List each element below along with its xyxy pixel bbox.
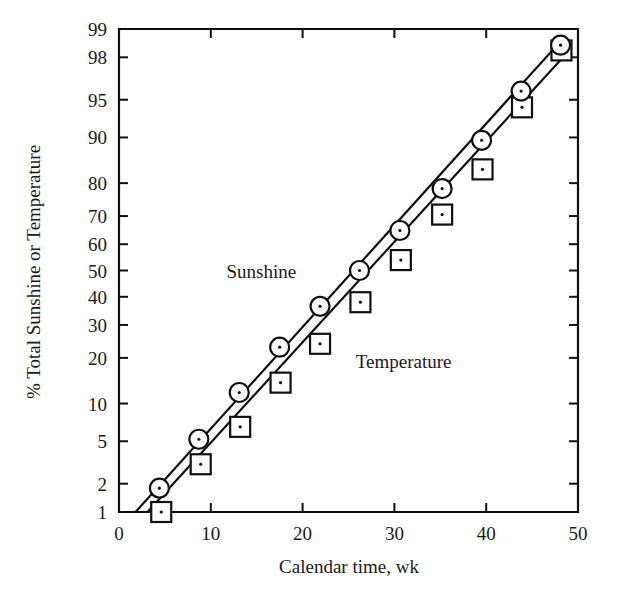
- data-point-center-dot: [318, 305, 321, 308]
- x-tick-label: 10: [201, 523, 220, 544]
- y-tick-label: 10: [88, 394, 107, 415]
- data-point-center-dot: [279, 381, 282, 384]
- y-tick-label: 1: [98, 502, 108, 523]
- data-point-center-dot: [238, 391, 241, 394]
- series-annotations: SunshineTemperature: [226, 261, 451, 371]
- probability-plot: 01020304050 125102030405060708090959899 …: [0, 0, 621, 616]
- data-point-center-dot: [359, 301, 362, 304]
- y-tick-label: 80: [88, 173, 107, 194]
- series-sunshine-markers: [150, 36, 570, 498]
- y-tick-label: 99: [88, 19, 107, 40]
- y-tick-label: 5: [98, 431, 108, 452]
- y-tick-label: 70: [88, 206, 107, 227]
- x-tick-label: 50: [569, 523, 588, 544]
- x-axis-title: Calendar time, wk: [279, 556, 419, 577]
- data-point-center-dot: [197, 438, 200, 441]
- y-tick-label: 60: [88, 234, 107, 255]
- y-tick-label: 2: [98, 474, 108, 495]
- y-tick-label: 90: [88, 127, 107, 148]
- data-point-center-dot: [318, 342, 321, 345]
- data-point-center-dot: [481, 168, 484, 171]
- data-point-center-dot: [520, 106, 523, 109]
- x-axis-tick-labels: 01020304050: [114, 523, 587, 544]
- data-point-center-dot: [441, 213, 444, 216]
- chart-figure: 01020304050 125102030405060708090959899 …: [0, 0, 621, 616]
- x-axis-ticks: [119, 29, 578, 512]
- y-tick-label: 40: [88, 287, 107, 308]
- data-point-center-dot: [358, 269, 361, 272]
- y-axis-ticks: [119, 29, 578, 512]
- data-point-center-dot: [278, 346, 281, 349]
- data-point-center-dot: [441, 187, 444, 190]
- plot-frame: [119, 29, 578, 512]
- x-tick-label: 30: [385, 523, 404, 544]
- annotation-temperature: Temperature: [356, 351, 452, 372]
- data-point-center-dot: [199, 463, 202, 466]
- data-point-center-dot: [399, 258, 402, 261]
- data-point-center-dot: [398, 229, 401, 232]
- data-point-center-dot: [160, 510, 163, 513]
- data-point-center-dot: [158, 487, 161, 490]
- x-tick-label: 40: [477, 523, 496, 544]
- data-point-center-dot: [239, 425, 242, 428]
- y-axis-title: % Total Sunshine or Temperature: [23, 145, 44, 399]
- data-point-center-dot: [559, 44, 562, 47]
- data-point-center-dot: [480, 139, 483, 142]
- y-tick-label: 95: [88, 90, 107, 111]
- y-tick-label: 30: [88, 315, 107, 336]
- y-tick-label: 50: [88, 261, 107, 282]
- data-point-center-dot: [519, 90, 522, 93]
- y-tick-label: 98: [88, 47, 107, 68]
- series-temperature-markers: [151, 40, 571, 522]
- x-tick-label: 20: [293, 523, 312, 544]
- x-tick-label: 0: [114, 523, 124, 544]
- annotation-sunshine: Sunshine: [226, 261, 296, 282]
- y-axis-tick-labels: 125102030405060708090959899: [88, 19, 107, 523]
- y-tick-label: 20: [88, 348, 107, 369]
